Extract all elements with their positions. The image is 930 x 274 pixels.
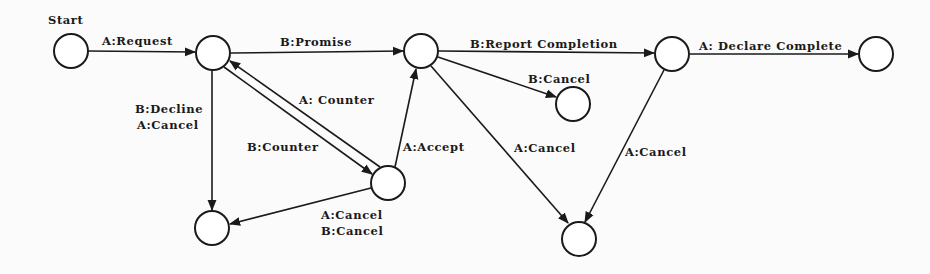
edge-labels: Start A:Request B:Promise B:Report Compl… xyxy=(48,13,842,238)
state-diagram: Start A:Request B:Promise B:Report Compl… xyxy=(0,0,930,274)
label-counter-cancel-line1: A:Cancel xyxy=(320,208,383,222)
label-promise: B:Promise xyxy=(280,35,352,49)
edge-b-counter xyxy=(224,67,372,174)
nodes xyxy=(54,34,893,256)
state-node-start xyxy=(54,34,88,68)
state-node-a-cancelled xyxy=(562,222,596,256)
label-counter-cancel-line2: B:Cancel xyxy=(321,224,383,238)
label-b-counter: B:Counter xyxy=(247,140,319,154)
label-request: A:Request xyxy=(101,34,173,48)
start-label: Start xyxy=(48,13,84,27)
state-node-requested xyxy=(196,36,230,70)
label-a-cancel-mid: A:Cancel xyxy=(513,141,576,155)
label-declare-complete: A: Declare Complete xyxy=(698,39,842,53)
label-a-accept: A:Accept xyxy=(402,140,465,154)
edge-request xyxy=(88,51,195,52)
edge-report-completion xyxy=(439,51,654,53)
state-node-promised xyxy=(404,34,438,68)
edge-promise xyxy=(231,51,403,53)
label-decline-line2: A:Cancel xyxy=(136,118,199,132)
state-node-countered xyxy=(371,166,405,200)
label-decline-line1: B:Decline xyxy=(135,102,203,116)
state-node-complete xyxy=(859,37,893,71)
state-node-reported xyxy=(655,37,689,71)
label-a-counter: A: Counter xyxy=(298,93,375,107)
state-node-b-cancelled xyxy=(556,87,590,121)
label-report-completion: B:Report Completion xyxy=(470,37,618,51)
label-b-cancel: B:Cancel xyxy=(528,72,590,86)
diagram-canvas: Start A:Request B:Promise B:Report Compl… xyxy=(0,0,930,274)
edges xyxy=(88,51,858,224)
label-a-cancel-right: A:Cancel xyxy=(624,145,687,159)
state-node-declined xyxy=(195,211,229,245)
